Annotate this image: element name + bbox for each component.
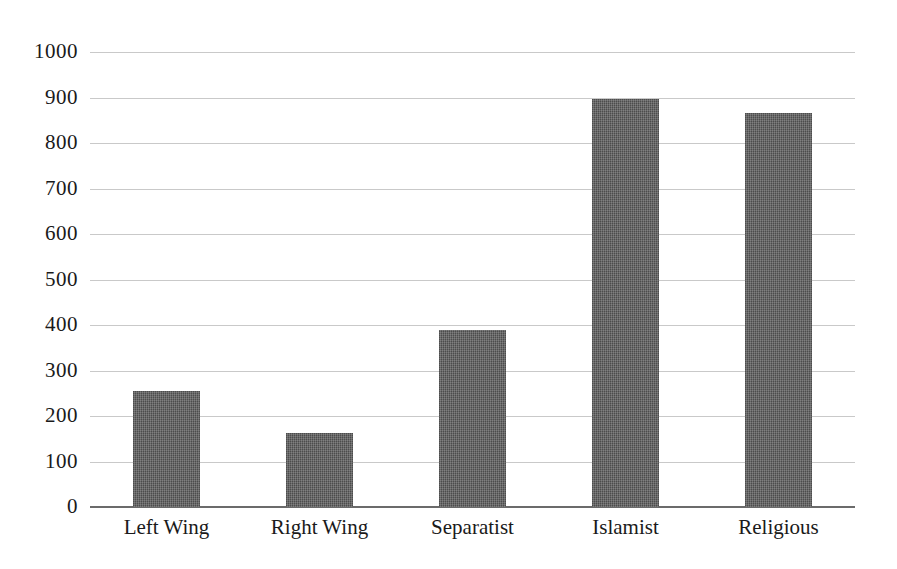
y-tick-label-200: 200 bbox=[6, 405, 78, 426]
x-tick-label-religious: Religious bbox=[674, 514, 884, 540]
y-tick-label-300: 300 bbox=[6, 360, 78, 381]
y-axis-tick-labels: 01002003004005006007008009001000 bbox=[0, 52, 78, 507]
y-tick-label-500: 500 bbox=[6, 269, 78, 290]
y-tick-label-600: 600 bbox=[6, 223, 78, 244]
gridline-400 bbox=[90, 325, 855, 326]
bar-chart-figure: 01002003004005006007008009001000 Left Wi… bbox=[0, 0, 897, 569]
y-tick-label-900: 900 bbox=[6, 87, 78, 108]
bar-separatist bbox=[439, 330, 506, 507]
gridline-1000 bbox=[90, 52, 855, 53]
bar-right-wing bbox=[286, 433, 353, 507]
gridline-800 bbox=[90, 143, 855, 144]
plot-area bbox=[90, 52, 855, 507]
gridline-700 bbox=[90, 189, 855, 190]
bar-left-wing bbox=[133, 391, 200, 507]
y-tick-label-1000: 1000 bbox=[6, 41, 78, 62]
gridline-500 bbox=[90, 280, 855, 281]
bar-religious bbox=[745, 113, 812, 507]
y-tick-label-400: 400 bbox=[6, 314, 78, 335]
gridline-900 bbox=[90, 98, 855, 99]
gridline-600 bbox=[90, 234, 855, 235]
bar-islamist bbox=[592, 99, 659, 507]
y-tick-label-800: 800 bbox=[6, 132, 78, 153]
y-tick-label-700: 700 bbox=[6, 178, 78, 199]
y-tick-label-100: 100 bbox=[6, 451, 78, 472]
